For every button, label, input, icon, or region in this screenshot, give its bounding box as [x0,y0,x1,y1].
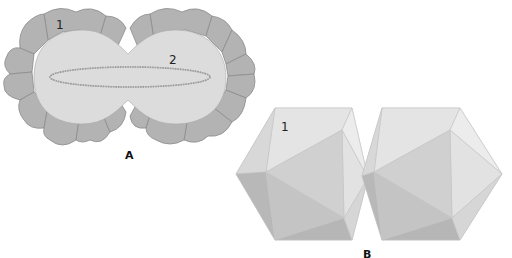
virus-diagram [0,0,512,258]
icosahedron-left [236,108,368,240]
callout-b-1: 1 [281,121,289,133]
panel-label-a: A [125,150,134,161]
icosahedron-right [362,108,502,240]
panel-a-cross-section [4,8,255,145]
callout-a-2: 2 [169,54,177,66]
panel-b-icosahedra [236,108,502,240]
callout-a-1: 1 [56,19,64,31]
panel-label-b: B [363,249,371,258]
capsid-core [34,30,226,124]
